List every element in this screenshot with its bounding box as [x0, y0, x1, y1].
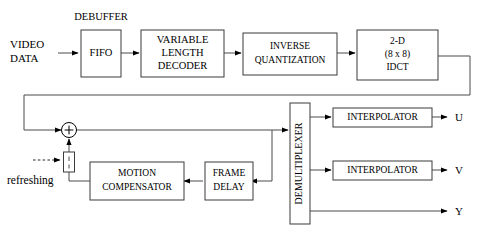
block-inverse-quantization[interactable]: [243, 33, 337, 75]
block-idct-label-line1: 2-D: [390, 36, 405, 46]
block-fifo-label: FIFO: [90, 47, 113, 58]
output-label-y: Y: [455, 205, 463, 217]
input-label-refreshing: refreshing: [7, 174, 54, 187]
input-label-video-data-line1: VIDEO: [10, 38, 44, 50]
output-label-v: V: [455, 164, 463, 176]
block-frame-delay-label-line1: FRAME: [213, 168, 246, 178]
block-demultiplexer-label: DEMULTIPLEXER: [293, 122, 304, 204]
block-vld-label-line3: DECODER: [158, 60, 208, 71]
block-idct-label-line3: IDCT: [386, 62, 408, 72]
block-refresh-switch[interactable]: [64, 152, 75, 172]
block-diagram-svg: FIFO VARIABLE LENGTH DECODER INVERSE QUA…: [0, 0, 478, 239]
wire-motion-compensator-to-switch: [69, 172, 90, 181]
block-iq-label-line1: INVERSE: [270, 41, 310, 51]
block-frame-delay-label-line2: DELAY: [213, 182, 244, 192]
block-interpolator-v-label: INTERPOLATOR: [347, 165, 418, 175]
wire-demux-tap-to-frame-delay: [251, 130, 272, 181]
block-motion-compensator-label-line1: MOTION: [118, 168, 156, 178]
block-interpolator-u-label: INTERPOLATOR: [347, 112, 418, 122]
block-vld-label-line1: VARIABLE: [157, 34, 209, 45]
block-vld-label-line2: LENGTH: [162, 47, 204, 58]
block-diagram-canvas: FIFO VARIABLE LENGTH DECODER INVERSE QUA…: [0, 0, 478, 239]
block-motion-compensator-label-line2: COMPENSATOR: [102, 182, 172, 192]
input-label-video-data-line2: DATA: [10, 52, 39, 64]
block-iq-label-line2: QUANTIZATION: [255, 55, 326, 65]
annotation-debuffer: DEBUFFER: [74, 11, 128, 22]
output-label-u: U: [455, 111, 463, 123]
block-idct-label-line2: (8 x 8): [385, 49, 410, 60]
